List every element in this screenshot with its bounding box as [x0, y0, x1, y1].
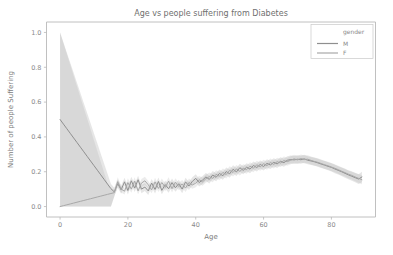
y-tick-label: 0.2 — [31, 168, 41, 176]
y-tick-label: 0.4 — [31, 133, 41, 141]
x-axis-label: Age — [204, 233, 218, 241]
y-tick-label: 0.6 — [31, 98, 41, 106]
x-tick-label: 40 — [192, 221, 200, 229]
x-tick-label: 80 — [327, 221, 335, 229]
y-tick-label: 0.0 — [31, 203, 41, 211]
y-axis-label: Number of people Suffering — [7, 71, 15, 168]
legend-title: gender — [343, 28, 365, 36]
x-tick-label: 0 — [58, 221, 62, 229]
chart-figure: 0204060800.00.20.40.60.81.0 Age vs peopl… — [0, 0, 393, 255]
y-tick-label: 0.8 — [31, 64, 41, 72]
chart-canvas: 0204060800.00.20.40.60.81.0 Age vs peopl… — [0, 0, 393, 255]
x-tick-label: 60 — [259, 221, 267, 229]
chart-legend[interactable]: gender MF — [311, 25, 373, 59]
legend-label-F[interactable]: F — [343, 49, 347, 56]
legend-label-M[interactable]: M — [343, 40, 348, 47]
x-tick-label: 20 — [124, 221, 132, 229]
chart-title: Age vs people suffering from Diabetes — [134, 9, 288, 18]
y-tick-label: 1.0 — [31, 29, 41, 37]
